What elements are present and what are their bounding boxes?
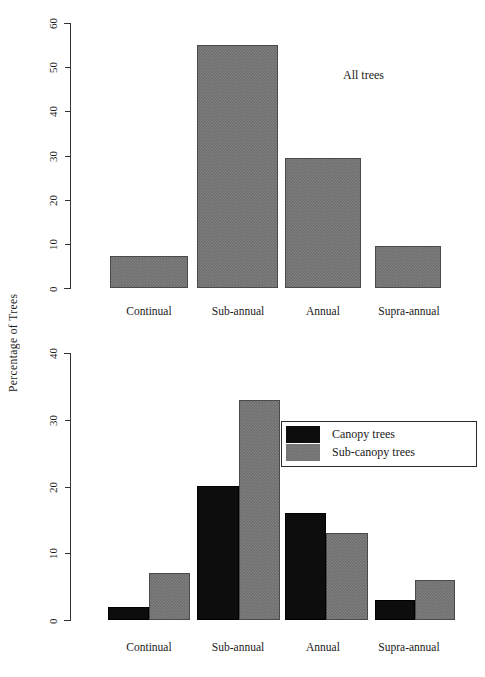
bottom-bar-continual-subcanopy [149,573,190,620]
legend-swatch-subcanopy-icon [286,444,320,461]
legend-label-canopy-trees: Canopy trees [320,426,395,443]
bottom-xlabel-supra-annual: Supra-annual [368,641,450,653]
bottom-panel: 0 10 20 30 40 Canopy trees [0,0,485,677]
bottom-bar-sub-annual-subcanopy [239,400,280,620]
bottom-xlabel-continual: Continual [108,641,190,653]
bottom-xlabel-annual: Annual [283,641,363,653]
legend-label-sub-canopy-trees: Sub-canopy trees [320,444,415,461]
bottom-bar-supra-annual-subcanopy [415,580,455,620]
bottom-bar-sub-annual-canopy [197,486,239,620]
legend-swatch-canopy-icon [286,426,320,443]
bottom-bar-continual-canopy [108,607,149,620]
legend-item-canopy-trees[interactable]: Canopy trees [286,425,472,443]
legend-item-sub-canopy-trees[interactable]: Sub-canopy trees [286,443,472,461]
bottom-y-axis-bottom-cap [64,620,71,621]
legend: Canopy trees Sub-canopy trees [281,421,477,467]
bottom-xlabel-sub-annual: Sub-annual [196,641,280,653]
bottom-bar-annual-subcanopy [326,533,368,620]
bottom-bar-annual-canopy [285,513,326,620]
bottom-bar-supra-annual-canopy [375,600,415,620]
bottom-plot-area [0,353,485,620]
figure-canvas: Percentage of Trees 0 10 20 30 40 50 60 … [0,0,485,677]
